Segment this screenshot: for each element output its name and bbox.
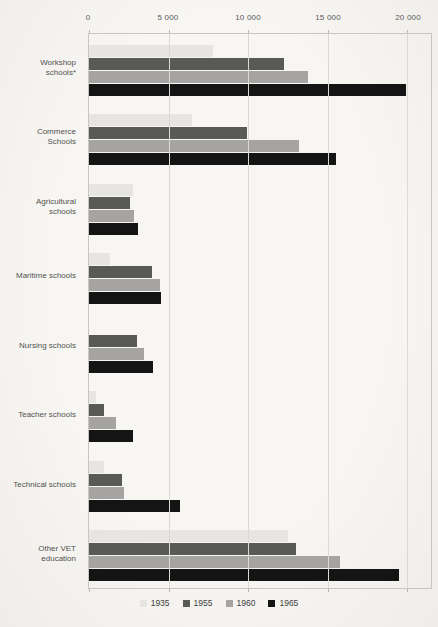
bar-chart-figure: 05 00010 00015 00020 000 Workshopschools… xyxy=(0,0,438,627)
bar-1965 xyxy=(89,223,138,235)
bar-1965 xyxy=(89,361,153,373)
category-label-text: Teacher schools xyxy=(18,410,76,420)
legend-item: 1960 xyxy=(226,598,256,608)
bar-group xyxy=(89,34,431,103)
bar-1960 xyxy=(89,210,134,222)
category-label: Other VETeducation xyxy=(2,520,82,590)
legend-label: 1935 xyxy=(151,598,170,608)
bar-rows xyxy=(89,34,431,588)
bar-1960 xyxy=(89,71,308,83)
category-label: Technical schools xyxy=(2,450,82,520)
axis-tick-mark xyxy=(89,30,90,33)
bar-1955 xyxy=(89,266,152,278)
category-label-text: Technical schools xyxy=(13,480,76,490)
bar-group xyxy=(89,311,431,380)
category-label: Maritime schools xyxy=(2,242,82,312)
bar-1965 xyxy=(89,500,180,512)
bar-group xyxy=(89,242,431,311)
bar-1960 xyxy=(89,487,124,499)
axis-tick-mark xyxy=(169,30,170,33)
category-label-text: Nursing schools xyxy=(19,341,76,351)
category-label: CommerceSchools xyxy=(2,103,82,173)
bar-group xyxy=(89,380,431,449)
legend-swatch xyxy=(183,600,190,607)
legend-label: 1965 xyxy=(279,598,298,608)
category-label-text: Maritime schools xyxy=(16,271,76,281)
legend-item: 1935 xyxy=(140,598,170,608)
category-label-text: Agriculturalschools xyxy=(36,197,76,217)
axis-tick-mark xyxy=(248,30,249,33)
bar-1960 xyxy=(89,348,144,360)
axis-tick-mark xyxy=(407,30,408,33)
axis-tick-mark xyxy=(169,589,170,592)
bar-1955 xyxy=(89,58,284,70)
category-label-text: Workshopschools* xyxy=(40,58,76,78)
category-label: Teacher schools xyxy=(2,381,82,451)
bar-group xyxy=(89,450,431,519)
y-axis: Workshopschools*CommerceSchoolsAgricultu… xyxy=(0,0,88,627)
bar-group xyxy=(89,103,431,172)
bar-1960 xyxy=(89,417,116,429)
bar-1960 xyxy=(89,279,160,291)
bar-1965 xyxy=(89,569,399,581)
legend-item: 1955 xyxy=(183,598,213,608)
bar-1935 xyxy=(89,461,104,473)
axis-tick-label: 5 000 xyxy=(157,13,178,22)
legend-swatch xyxy=(226,600,233,607)
bar-1955 xyxy=(89,197,130,209)
legend-label: 1960 xyxy=(237,598,256,608)
bar-1960 xyxy=(89,556,340,568)
bar-1935 xyxy=(89,184,133,196)
category-label-text: Other VETeducation xyxy=(38,544,76,564)
grid-line xyxy=(248,34,249,588)
axis-tick-label: 15 000 xyxy=(315,13,341,22)
bar-1935 xyxy=(89,530,288,542)
axis-tick-mark xyxy=(407,589,408,592)
grid-line xyxy=(328,34,329,588)
axis-tick-mark xyxy=(89,589,90,592)
bar-1960 xyxy=(89,140,299,152)
axis-tick-mark xyxy=(248,589,249,592)
bar-1935 xyxy=(89,391,96,403)
legend-swatch xyxy=(268,600,275,607)
category-label: Agriculturalschools xyxy=(2,172,82,242)
bar-1955 xyxy=(89,543,296,555)
category-label: Nursing schools xyxy=(2,311,82,381)
legend-label: 1955 xyxy=(194,598,213,608)
axis-tick-label: 20 000 xyxy=(395,13,421,22)
bar-group xyxy=(89,519,431,588)
axis-tick-mark xyxy=(328,30,329,33)
legend: 1935195519601965 xyxy=(0,595,438,611)
bar-1955 xyxy=(89,404,104,416)
category-label: Workshopschools* xyxy=(2,33,82,103)
legend-swatch xyxy=(140,600,147,607)
grid-line xyxy=(407,34,408,588)
bar-group xyxy=(89,173,431,242)
category-label-text: CommerceSchools xyxy=(37,127,76,147)
bar-1955 xyxy=(89,474,122,486)
axis-tick-mark xyxy=(328,589,329,592)
axis-tick-label: 10 000 xyxy=(235,13,261,22)
bar-1965 xyxy=(89,430,133,442)
bar-1965 xyxy=(89,292,161,304)
bar-1965 xyxy=(89,153,336,165)
bar-1955 xyxy=(89,335,137,347)
bar-1935 xyxy=(89,45,213,57)
legend-item: 1965 xyxy=(268,598,298,608)
plot-area xyxy=(88,33,432,589)
bar-1935 xyxy=(89,114,192,126)
bar-1935 xyxy=(89,253,110,265)
grid-line xyxy=(169,34,170,588)
